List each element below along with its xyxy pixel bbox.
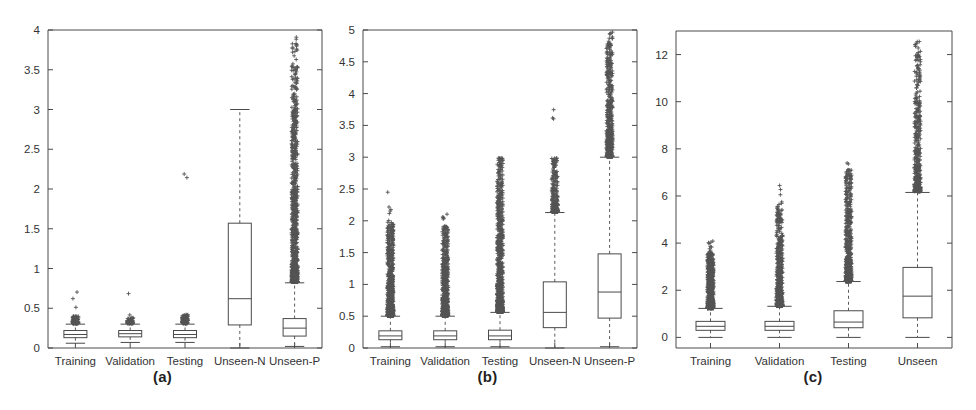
- y-tick-label: 1: [34, 263, 40, 275]
- boxplot-validation: [765, 183, 794, 337]
- box-iqr: [434, 331, 457, 340]
- y-tick-label: 0: [349, 342, 355, 354]
- axis-frame: [48, 30, 322, 348]
- box-iqr: [543, 282, 566, 328]
- outliers-testing: [844, 161, 854, 283]
- y-tick-label: 1: [349, 278, 355, 290]
- panel-caption: (a): [0, 368, 325, 385]
- boxplot-testing: [173, 172, 196, 342]
- panel-caption: (c): [650, 368, 976, 385]
- outliers-unseen-p: [605, 30, 615, 158]
- x-axis-label-unseen-n: Unseen-N: [214, 355, 266, 367]
- y-tick-label: 0.5: [339, 310, 355, 322]
- outliers-testing: [495, 156, 505, 314]
- y-tick-label: 10: [655, 96, 668, 108]
- x-axis-label-validation: Validation: [420, 355, 470, 367]
- y-tick-label: 2: [349, 215, 355, 227]
- outliers-training: [706, 239, 716, 310]
- y-tick-label: 0: [34, 342, 40, 354]
- y-tick-label: 4: [662, 237, 669, 249]
- panel-caption: (b): [325, 368, 650, 385]
- panel-plot-area: 024681012TrainingValidationTestingUnseen: [650, 0, 976, 410]
- y-tick-label: 8: [662, 143, 668, 155]
- outliers-validation: [775, 183, 785, 308]
- panel-c: 024681012TrainingValidationTestingUnseen…: [650, 0, 976, 410]
- axis-frame: [676, 31, 952, 348]
- boxplot-validation: [119, 292, 142, 343]
- y-tick-label: 1.5: [24, 223, 40, 235]
- x-axis-label-unseen: Unseen: [898, 355, 938, 367]
- y-tick-label: 3: [34, 104, 40, 116]
- x-axis-label-testing: Testing: [830, 355, 866, 367]
- y-tick-label: 3.5: [24, 64, 40, 76]
- x-axis-label-unseen-n: Unseen-N: [529, 355, 581, 367]
- boxplot-unseen-n: [228, 110, 251, 349]
- y-tick-label: 0: [662, 331, 668, 343]
- y-tick-label: 4: [349, 88, 356, 100]
- panel-plot-area: 00.511.522.533.54TrainingValidationTesti…: [0, 0, 325, 410]
- outliers-testing: [180, 172, 190, 325]
- boxplot-figure: 00.511.522.533.54TrainingValidationTesti…: [0, 0, 976, 410]
- boxplot-testing: [488, 156, 511, 347]
- x-axis-label-unseen-p: Unseen-P: [269, 355, 320, 367]
- box-iqr: [283, 319, 306, 336]
- y-tick-label: 4.5: [339, 56, 355, 68]
- y-tick-label: 5: [349, 24, 355, 36]
- x-axis-label-training: Training: [370, 355, 411, 367]
- y-tick-label: 2: [662, 284, 668, 296]
- box-iqr: [488, 330, 511, 340]
- x-axis-label-testing: Testing: [167, 355, 203, 367]
- boxplot-training: [379, 190, 402, 347]
- panel-b: 00.511.522.533.544.55TrainingValidationT…: [325, 0, 650, 410]
- panel-plot-area: 00.511.522.533.544.55TrainingValidationT…: [325, 0, 650, 410]
- y-tick-label: 2: [34, 183, 40, 195]
- boxplot-unseen-n: [543, 108, 566, 348]
- outliers-unseen-p: [290, 35, 300, 284]
- outliers-validation: [440, 212, 450, 317]
- x-axis-label-unseen-p: Unseen-P: [584, 355, 635, 367]
- y-tick-label: 3: [349, 151, 355, 163]
- y-tick-label: 2.5: [339, 183, 355, 195]
- box-iqr: [834, 311, 863, 328]
- outliers-unseen-n: [550, 108, 560, 214]
- outliers-training: [70, 290, 80, 325]
- outliers-training: [385, 190, 395, 317]
- x-axis-label-training: Training: [690, 355, 731, 367]
- y-tick-label: 2.5: [24, 143, 40, 155]
- boxplot-training: [64, 290, 87, 343]
- outliers-unseen: [913, 40, 923, 194]
- y-tick-label: 4: [34, 24, 41, 36]
- boxplot-training: [696, 239, 725, 337]
- boxplot-testing: [834, 161, 863, 337]
- box-iqr: [598, 254, 621, 318]
- y-tick-label: 12: [655, 49, 668, 61]
- x-axis-label-training: Training: [55, 355, 96, 367]
- x-axis-label-validation: Validation: [105, 355, 155, 367]
- panel-a: 00.511.522.533.54TrainingValidationTesti…: [0, 0, 325, 410]
- x-axis-label-testing: Testing: [482, 355, 518, 367]
- box-iqr: [903, 267, 932, 317]
- y-tick-label: 1.5: [339, 247, 355, 259]
- boxplot-unseen-p: [283, 35, 306, 346]
- boxplot-validation: [434, 212, 457, 347]
- boxplot-unseen: [903, 40, 932, 338]
- y-tick-label: 6: [662, 190, 668, 202]
- box-iqr: [228, 223, 251, 325]
- y-tick-label: 0.5: [24, 302, 40, 314]
- boxplot-unseen-p: [598, 30, 621, 347]
- y-tick-label: 3.5: [339, 119, 355, 131]
- box-iqr: [379, 331, 402, 340]
- x-axis-label-validation: Validation: [755, 355, 805, 367]
- outliers-validation: [125, 292, 135, 326]
